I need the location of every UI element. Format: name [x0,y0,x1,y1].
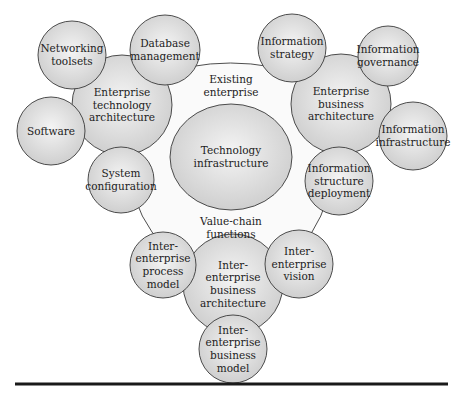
enterprise-technology-architecture-label: Enterprisetechnologyarchitecture [89,86,155,123]
system-configuration-label-line: System [102,167,141,179]
software-label-line: Software [27,125,75,137]
inter-enterprise-business-model-label-line: model [217,362,250,374]
value-chain-functions-label-line: functions [206,228,255,240]
enterprise-technology-architecture-label-line: technology [93,99,152,111]
enterprise-technology-architecture-label-line: architecture [89,111,155,123]
database-management-label-line: management [130,50,200,62]
inter-enterprise-vision-label-line: vision [282,270,314,282]
enterprise-business-architecture-label-line: Enterprise [313,85,370,97]
technology-infrastructure-label-line: infrastructure [194,157,269,169]
information-structure-deployment-label-line: Information [307,162,370,174]
system-configuration-label-line: configuration [85,180,157,192]
inter-enterprise-business-architecture-label-line: architecture [200,297,266,309]
inter-enterprise-vision-label-line: enterprise [271,258,326,270]
inter-enterprise-process-model-label-line: Inter- [148,240,178,252]
inter-enterprise-process-model-label-line: process [143,265,184,277]
enterprise-architecture-diagram: TechnologyinfrastructureExistingenterpri… [0,0,462,405]
enterprise-business-architecture-label-line: business [318,98,364,110]
information-governance-label: Informationgovernance [356,43,419,68]
inter-enterprise-business-model-label-line: Inter- [218,324,248,336]
inter-enterprise-business-architecture-label-line: Inter- [218,259,248,271]
information-strategy-label-line: strategy [270,48,314,60]
existing-enterprise-label-line: Existing [209,73,253,85]
information-governance-label-line: governance [357,56,419,68]
existing-enterprise-label: Existingenterprise [203,73,258,98]
inter-enterprise-vision-label-line: Inter- [284,245,314,257]
information-governance-label-line: Information [356,43,419,55]
inter-enterprise-business-model-label-line: enterprise [205,336,260,348]
information-infrastructure-label-line: infrastructure [376,136,451,148]
database-management-label-line: Database [140,37,190,49]
enterprise-business-architecture-label-line: architecture [308,110,374,122]
technology-infrastructure-label-line: Technology [201,144,262,156]
information-structure-deployment-label: Informationstructuredeployment [307,162,370,199]
inter-enterprise-process-model-label-line: enterprise [135,252,190,264]
information-infrastructure-label-line: Information [381,123,444,135]
existing-enterprise-label-line: enterprise [203,86,258,98]
inter-enterprise-business-architecture-label-line: business [210,284,256,296]
information-infrastructure-label: Informationinfrastructure [376,123,451,148]
technology-infrastructure-label: Technologyinfrastructure [194,144,269,169]
software-label: Software [27,125,75,137]
inter-enterprise-business-architecture-label-line: enterprise [205,271,260,283]
information-structure-deployment-label-line: deployment [308,187,371,199]
networking-toolsets-label-line: Networking [40,42,103,54]
information-strategy-label-line: Information [260,35,323,47]
inter-enterprise-process-model-label-line: model [147,278,180,290]
enterprise-technology-architecture-label-line: Enterprise [94,86,151,98]
inter-enterprise-business-model-label-line: business [210,349,256,361]
value-chain-functions-label: Value-chainfunctions [199,215,262,240]
information-structure-deployment-label-line: structure [314,175,364,187]
value-chain-functions-label-line: Value-chain [199,215,262,227]
networking-toolsets-label-line: toolsets [51,55,92,67]
